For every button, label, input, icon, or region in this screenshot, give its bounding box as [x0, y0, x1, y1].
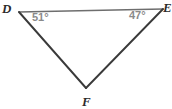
side-DF — [19, 12, 86, 88]
vertex-label-d: D — [2, 2, 11, 15]
vertex-label-e: E — [163, 1, 172, 14]
angle-measure-e: 47° — [129, 10, 146, 21]
geometry-figure: D E F 51° 47° — [0, 0, 172, 109]
side-EF — [86, 9, 163, 88]
angle-measure-d: 51° — [32, 12, 49, 23]
vertex-label-f: F — [82, 95, 91, 108]
triangle-svg — [0, 0, 172, 109]
